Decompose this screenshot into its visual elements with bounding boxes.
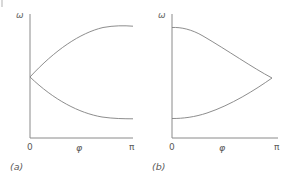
x-tick-pi: π <box>129 143 134 152</box>
panel-b: ω 0 φ π (b) <box>145 0 290 183</box>
lower-branch-curve <box>172 78 272 119</box>
x-axis-label: φ <box>219 143 225 153</box>
panel-a-caption: (a) <box>10 162 23 172</box>
upper-branch-curve <box>30 26 133 77</box>
x-tick-zero: 0 <box>27 143 33 152</box>
x-tick-pi: π <box>274 143 279 152</box>
panel-a-plot <box>0 0 145 150</box>
panel-a: ω 0 φ π (a) <box>0 0 145 183</box>
lower-branch-curve <box>30 77 133 119</box>
x-tick-zero: 0 <box>169 143 175 152</box>
panel-b-plot <box>145 0 290 150</box>
y-axis-label: ω <box>158 11 166 20</box>
panel-b-caption: (b) <box>152 162 165 172</box>
upper-branch-curve <box>172 27 272 78</box>
y-axis-label: ω <box>16 11 24 20</box>
figure-container: ω 0 φ π (a) ω 0 φ π (b) <box>0 0 290 183</box>
x-axis-label: φ <box>76 143 82 153</box>
